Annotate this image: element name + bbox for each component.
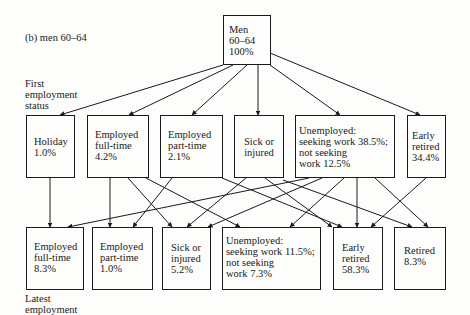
- root-box-men-60-64: Men 60–64 100%: [223, 15, 271, 65]
- box-line: retired: [342, 253, 382, 264]
- arrow-early-early: [371, 178, 426, 227]
- box-line: Employed: [95, 129, 148, 140]
- first-box-early-retired: Early retired 34.4%: [407, 115, 446, 178]
- box-line: Sick or: [244, 136, 274, 147]
- box-line: not seeking: [299, 147, 394, 158]
- box-line: seeking work 11.5%;: [226, 246, 320, 257]
- latest-box-sick-or-injured: Sick or injured 5.2%: [162, 227, 211, 290]
- box-line: injured: [171, 253, 210, 264]
- box-line: 8.3%: [34, 263, 83, 274]
- box-line: Unemployed:: [299, 125, 394, 136]
- box-line: seeking work 38.5%;: [299, 136, 394, 147]
- arrow-sick-retired: [283, 180, 412, 227]
- arrow-unemp-retired: [375, 178, 428, 227]
- box-line: Early: [412, 130, 445, 141]
- row-label-line: First: [25, 78, 78, 89]
- box-line: 5.2%: [171, 264, 210, 275]
- arrow-root-early-retired: [270, 53, 420, 115]
- box-line: Employed: [168, 129, 222, 140]
- box-line: 2.1%: [168, 151, 222, 162]
- box-line: 1.0%: [100, 263, 152, 274]
- arrow-unemp-sick: [208, 178, 322, 227]
- box-line: full-time: [34, 252, 83, 263]
- box-line: part-time: [168, 140, 222, 151]
- box-line: 1.0%: [34, 147, 74, 158]
- arrow-emppt-early: [222, 178, 342, 227]
- box-line: Early: [342, 242, 382, 253]
- box-line: Employed: [34, 241, 83, 252]
- box-line: Employed: [100, 241, 152, 252]
- arrow-emppt-emppt: [133, 178, 172, 227]
- box-line: work 12.5%: [299, 158, 394, 169]
- box-line: not seeking: [226, 257, 320, 268]
- first-box-employed-part-time: Employed part-time 2.1%: [160, 115, 223, 178]
- arrow-empft-sick: [128, 178, 172, 227]
- row-label-line: status: [25, 100, 78, 111]
- box-line: 34.4%: [412, 152, 445, 163]
- row-label-line: Latest: [25, 293, 78, 304]
- arrow-sick-sick: [187, 178, 246, 227]
- box-line: Men: [229, 24, 270, 35]
- row-label-latest: Latest employment: [25, 293, 78, 315]
- latest-box-early-retired: Early retired 58.3%: [333, 227, 383, 290]
- box-line: injured: [244, 147, 274, 158]
- box-line: Holiday: [34, 136, 74, 147]
- box-line: 60–64: [229, 35, 270, 46]
- transition-diagram: (b) men 60–64 First employment status La…: [0, 0, 470, 315]
- box-line: 4.2%: [95, 151, 148, 162]
- box-line: 8.3%: [404, 256, 445, 267]
- latest-box-employed-full-time: Employed full-time 8.3%: [26, 227, 84, 290]
- latest-box-retired: Retired 8.3%: [394, 227, 446, 290]
- first-box-sick-or-injured: Sick or injured: [234, 115, 284, 178]
- row-label-line: employment: [25, 304, 78, 315]
- box-line: 58.3%: [342, 264, 382, 275]
- box-line: 100%: [229, 46, 270, 57]
- box-line: Unemployed:: [226, 235, 320, 246]
- latest-box-unemployed: Unemployed: seeking work 11.5%; not seek…: [222, 227, 321, 290]
- row-label-first: First employment status: [25, 78, 78, 111]
- row-label-line: employment: [25, 89, 78, 100]
- first-box-unemployed: Unemployed: seeking work 38.5%; not seek…: [295, 115, 395, 178]
- box-line: full-time: [95, 140, 148, 151]
- arrow-unemp-empft: [68, 178, 309, 227]
- figure-caption: (b) men 60–64: [25, 32, 87, 43]
- first-box-holiday: Holiday 1.0%: [26, 115, 75, 178]
- arrow-root-employed-full-time: [129, 65, 233, 115]
- arrow-root-unemployed: [270, 65, 340, 115]
- latest-box-employed-part-time: Employed part-time 1.0%: [92, 227, 153, 290]
- box-line: work 7.3%: [226, 268, 320, 279]
- box-line: retired: [412, 141, 445, 152]
- first-box-employed-full-time: Employed full-time 4.2%: [87, 115, 149, 178]
- box-line: Sick or: [171, 242, 210, 253]
- box-line: Retired: [404, 245, 445, 256]
- box-line: part-time: [100, 252, 152, 263]
- arrow-root-holiday: [60, 65, 223, 115]
